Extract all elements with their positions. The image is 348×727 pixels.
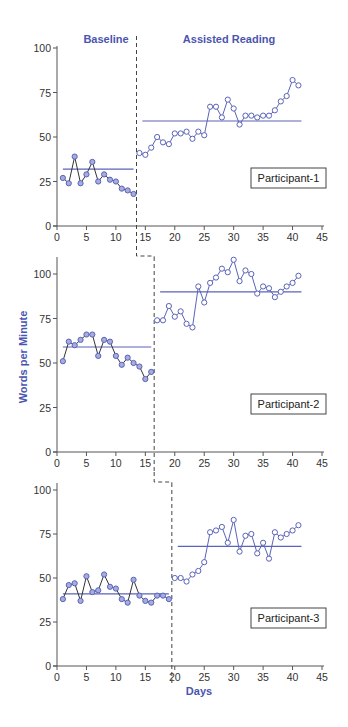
treatment-point bbox=[178, 131, 183, 136]
baseline-point bbox=[90, 332, 95, 337]
treatment-point bbox=[196, 568, 201, 573]
treatment-point bbox=[237, 279, 242, 284]
x-tick-label: 30 bbox=[228, 231, 240, 243]
treatment-point bbox=[184, 321, 189, 326]
treatment-point bbox=[149, 145, 154, 150]
baseline-point bbox=[166, 597, 171, 602]
panel-3: 0255075100051015202530354045Participant-… bbox=[33, 483, 328, 686]
y-tick-label: 100 bbox=[33, 42, 51, 54]
treatment-point bbox=[208, 530, 213, 535]
treatment-point bbox=[249, 113, 254, 118]
baseline-point bbox=[60, 359, 65, 364]
x-tick-label: 25 bbox=[198, 231, 210, 243]
baseline-point bbox=[131, 191, 136, 196]
x-tick-label: 10 bbox=[110, 671, 122, 683]
x-tick-label: 25 bbox=[198, 671, 210, 683]
treatment-point bbox=[284, 284, 289, 289]
baseline-point bbox=[137, 593, 142, 598]
treatment-point bbox=[202, 560, 207, 565]
treatment-point bbox=[290, 528, 295, 533]
treatment-point bbox=[243, 533, 248, 538]
baseline-point bbox=[113, 586, 118, 591]
y-tick-label: 0 bbox=[45, 446, 51, 458]
y-tick-label: 25 bbox=[39, 616, 51, 628]
treatment-point bbox=[137, 150, 142, 155]
treatment-point bbox=[160, 140, 165, 145]
y-tick-label: 75 bbox=[39, 87, 51, 99]
treatment-point bbox=[143, 152, 148, 157]
treatment-point bbox=[208, 280, 213, 285]
baseline-point bbox=[102, 337, 107, 342]
treatment-point bbox=[261, 540, 266, 545]
treatment-point bbox=[284, 93, 289, 98]
panels: 0255075100051015202530354045Participant-… bbox=[33, 36, 328, 686]
x-tick-label: 5 bbox=[84, 671, 90, 683]
treatment-point bbox=[190, 325, 195, 330]
x-tick-label: 40 bbox=[287, 457, 299, 469]
baseline-point bbox=[107, 177, 112, 182]
treatment-point bbox=[160, 318, 165, 323]
phase-labels: Baseline Assisted Reading bbox=[83, 33, 275, 45]
y-tick-label: 50 bbox=[39, 572, 51, 584]
baseline-point bbox=[84, 574, 89, 579]
participant-label: Participant-3 bbox=[258, 612, 320, 624]
treatment-point bbox=[213, 528, 218, 533]
baseline-point bbox=[119, 597, 124, 602]
baseline-point bbox=[113, 179, 118, 184]
baseline-point bbox=[72, 154, 77, 159]
panel-2: 0255075100051015202530354045Participant-… bbox=[33, 257, 328, 472]
y-tick-label: 50 bbox=[39, 131, 51, 143]
treatment-point bbox=[190, 572, 195, 577]
baseline-point bbox=[125, 355, 130, 360]
baseline-point bbox=[155, 593, 160, 598]
treatment-point bbox=[225, 540, 230, 545]
x-tick-label: 35 bbox=[257, 457, 269, 469]
treatment-point bbox=[196, 284, 201, 289]
y-tick-label: 50 bbox=[39, 357, 51, 369]
x-tick-label: 35 bbox=[257, 231, 269, 243]
baseline-point bbox=[107, 584, 112, 589]
treatment-point bbox=[266, 113, 271, 118]
y-tick-label: 25 bbox=[39, 176, 51, 188]
treatment-point bbox=[237, 549, 242, 554]
treatment-point bbox=[172, 131, 177, 136]
treatment-point bbox=[190, 136, 195, 141]
x-tick-label: 15 bbox=[139, 671, 151, 683]
participant-label: Participant-2 bbox=[258, 398, 320, 410]
treatment-point bbox=[255, 551, 260, 556]
x-tick-label: 20 bbox=[169, 671, 181, 683]
x-tick-label: 45 bbox=[316, 457, 328, 469]
treatment-point bbox=[296, 83, 301, 88]
x-tick-label: 10 bbox=[110, 231, 122, 243]
treatment-point bbox=[166, 303, 171, 308]
treatment-point bbox=[278, 289, 283, 294]
multiple-baseline-chart: Baseline Assisted Reading 02550751000510… bbox=[0, 0, 348, 727]
participant-label: Participant-1 bbox=[258, 172, 320, 184]
treatment-point bbox=[166, 142, 171, 147]
x-tick-label: 5 bbox=[84, 231, 90, 243]
x-tick-label: 0 bbox=[54, 671, 60, 683]
baseline-point bbox=[66, 582, 71, 587]
treatment-point bbox=[172, 314, 177, 319]
treatment-point bbox=[296, 273, 301, 278]
x-tick-label: 25 bbox=[198, 457, 210, 469]
x-tick-label: 40 bbox=[287, 231, 299, 243]
treatment-point bbox=[261, 113, 266, 118]
x-tick-label: 10 bbox=[110, 457, 122, 469]
treatment-point bbox=[178, 575, 183, 580]
x-tick-label: 45 bbox=[316, 231, 328, 243]
treatment-point bbox=[202, 133, 207, 138]
treatment-point bbox=[290, 77, 295, 82]
treatment-point bbox=[178, 309, 183, 314]
baseline-point bbox=[78, 598, 83, 603]
baseline-point bbox=[66, 339, 71, 344]
baseline-point bbox=[125, 188, 130, 193]
treatment-point bbox=[231, 106, 236, 111]
treatment-point bbox=[296, 523, 301, 528]
baseline-point bbox=[78, 181, 83, 186]
treatment-point bbox=[225, 270, 230, 275]
x-tick-label: 15 bbox=[139, 231, 151, 243]
baseline-point bbox=[96, 588, 101, 593]
y-tick-label: 100 bbox=[33, 484, 51, 496]
treatment-point bbox=[266, 556, 271, 561]
